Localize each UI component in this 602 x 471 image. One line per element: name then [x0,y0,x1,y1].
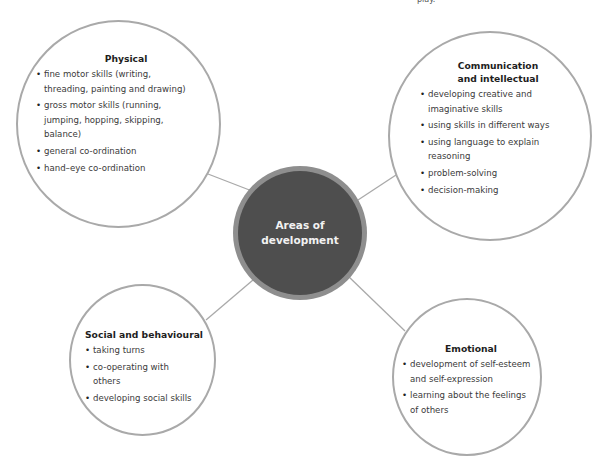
center-node: Areas of development [233,166,367,300]
list-item: learning about the feelings of others [402,388,534,417]
area-bubble-social: Social and behavioural taking turns co-o… [69,284,216,436]
area-bubble-communication: Communication and intellectual developin… [388,31,592,241]
area-list: fine motor skills (writing, threading, p… [36,67,216,175]
list-item: using skills in different ways [420,118,560,133]
list-item: taking turns [85,343,211,358]
area-bubble-emotional: Emotional development of self-esteem and… [392,298,542,456]
connector-social [206,280,253,320]
area-list: developing creative and imaginative skil… [420,87,560,197]
area-list: taking turns co-operating with others de… [85,343,211,405]
area-title: Communication and intellectual [420,59,548,85]
list-item: developing social skills [85,391,211,406]
list-item: general co-ordination [36,144,216,159]
list-item: co-operating with others [85,360,183,389]
list-item: gross motor skills (running, jumping, ho… [36,98,194,142]
area-title: Emotional [402,342,540,355]
list-item: developing creative and imaginative skil… [420,87,543,116]
list-item: using language to explain reasoning [420,135,553,164]
list-item: decision-making [420,183,560,198]
connector-emotional [348,276,405,331]
list-item: fine motor skills (writing, threading, p… [36,67,194,96]
area-title: Social and behavioural [85,328,211,341]
area-bubble-physical: Physical fine motor skills (writing, thr… [16,20,221,228]
area-title: Physical [36,52,216,65]
list-item: problem-solving [420,166,560,181]
area-list: development of self-esteem and self-expr… [402,357,540,417]
list-item: hand–eye co-ordination [36,161,216,176]
center-node-fill: Areas of development [238,171,362,295]
list-item: development of self-esteem and self-expr… [402,357,538,386]
connector-communication [358,175,396,200]
center-label: Areas of development [250,218,350,248]
